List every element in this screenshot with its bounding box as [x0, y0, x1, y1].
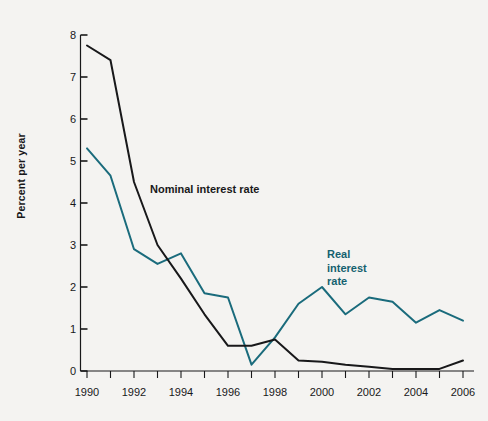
y-tick-marks [81, 35, 88, 371]
x-tick-label-2004: 2004 [393, 386, 439, 398]
x-tick-label-2002: 2002 [346, 386, 392, 398]
x-tick-label-1996: 1996 [205, 386, 251, 398]
x-tick-label-1992: 1992 [111, 386, 157, 398]
real-interest-rate-label: Real interest rate [327, 248, 367, 289]
interest-rate-line-chart: Percent per year 8 7 6 5 4 3 2 1 0 1990 … [0, 0, 488, 421]
x-tick-label-2000: 2000 [299, 386, 345, 398]
real-label-line-1: Real [327, 248, 367, 262]
real-interest-rate-line [87, 148, 463, 364]
real-label-line-3: rate [327, 275, 367, 289]
x-tick-marks [87, 371, 463, 378]
x-tick-label-2006: 2006 [440, 386, 486, 398]
nominal-interest-rate-label: Nominal interest rate [150, 183, 259, 197]
plot-area [0, 0, 488, 421]
nominal-interest-rate-line [87, 46, 463, 369]
real-label-line-2: interest [327, 262, 367, 276]
x-tick-label-1990: 1990 [64, 386, 110, 398]
x-tick-label-1998: 1998 [252, 386, 298, 398]
x-tick-label-1994: 1994 [158, 386, 204, 398]
